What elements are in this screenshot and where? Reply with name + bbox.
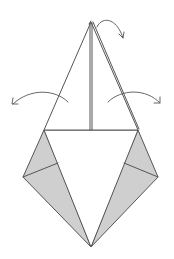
- top-flap-arrow: [97, 20, 124, 38]
- origami-diagram: [0, 0, 174, 259]
- upper-triangle: [44, 22, 138, 130]
- top-arrow-curve: [97, 20, 123, 38]
